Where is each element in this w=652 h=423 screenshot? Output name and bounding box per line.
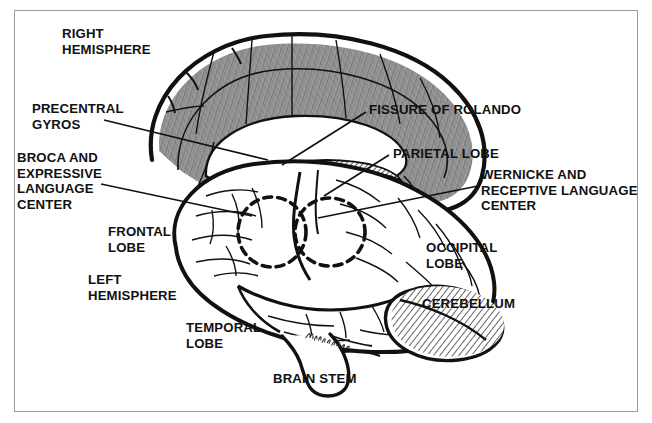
label-occipital-lobe-line-0: OCCIPITAL xyxy=(426,240,497,256)
label-left-hemisphere-line-1: HEMISPHERE xyxy=(88,288,177,304)
label-frontal-lobe-line-1: LOBE xyxy=(108,240,171,256)
label-broca-center-line-2: LANGUAGE xyxy=(17,181,102,197)
label-right-hemisphere: RIGHTHEMISPHERE xyxy=(62,26,151,57)
label-right-hemisphere-line-1: HEMISPHERE xyxy=(62,42,151,58)
label-temporal-lobe-line-1: LOBE xyxy=(186,336,261,352)
label-brain-stem: BRAIN STEM xyxy=(273,371,357,387)
label-wernicke-center-line-2: CENTER xyxy=(481,198,638,214)
label-precentral-gyros-line-1: GYROS xyxy=(32,117,124,133)
label-frontal-lobe-line-0: FRONTAL xyxy=(108,224,171,240)
label-broca-center-line-1: EXPRESSIVE xyxy=(17,166,102,182)
label-right-hemisphere-line-0: RIGHT xyxy=(62,26,151,42)
label-temporal-lobe: TEMPORALLOBE xyxy=(186,320,261,351)
brain-diagram-figure: RIGHTHEMISPHEREPRECENTRALGYROSBROCA ANDE… xyxy=(0,0,652,423)
label-temporal-lobe-line-0: TEMPORAL xyxy=(186,320,261,336)
label-broca-center-line-0: BROCA AND xyxy=(17,150,102,166)
label-parietal-lobe-line-0: PARIETAL LOBE xyxy=(393,146,499,162)
label-occipital-lobe: OCCIPITALLOBE xyxy=(426,240,497,271)
label-cerebellum-line-0: CEREBELLUM xyxy=(422,296,515,312)
label-wernicke-center: WERNICKE ANDRECEPTIVE LANGUAGECENTER xyxy=(481,167,638,214)
label-fissure-of-rolando: FISSURE OF ROLANDO xyxy=(369,102,521,118)
label-occipital-lobe-line-1: LOBE xyxy=(426,256,497,272)
label-cerebellum: CEREBELLUM xyxy=(422,296,515,312)
label-precentral-gyros: PRECENTRALGYROS xyxy=(32,101,124,132)
label-left-hemisphere-line-0: LEFT xyxy=(88,272,177,288)
label-wernicke-center-line-0: WERNICKE AND xyxy=(481,167,638,183)
label-broca-center-line-3: CENTER xyxy=(17,197,102,213)
label-wernicke-center-line-1: RECEPTIVE LANGUAGE xyxy=(481,183,638,199)
label-brain-stem-line-0: BRAIN STEM xyxy=(273,371,357,387)
label-left-hemisphere: LEFTHEMISPHERE xyxy=(88,272,177,303)
label-frontal-lobe: FRONTALLOBE xyxy=(108,224,171,255)
label-broca-center: BROCA ANDEXPRESSIVELANGUAGECENTER xyxy=(17,150,102,212)
label-fissure-of-rolando-line-0: FISSURE OF ROLANDO xyxy=(369,102,521,118)
label-precentral-gyros-line-0: PRECENTRAL xyxy=(32,101,124,117)
label-parietal-lobe: PARIETAL LOBE xyxy=(393,146,499,162)
